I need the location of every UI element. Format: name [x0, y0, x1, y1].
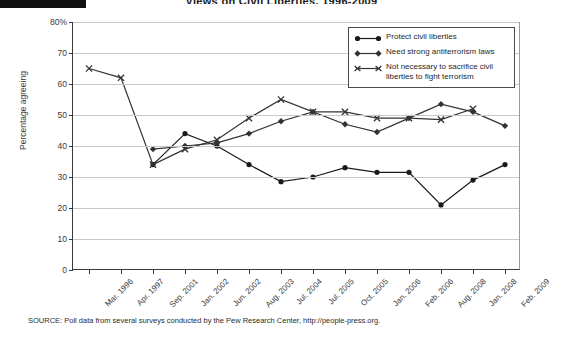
gridline	[73, 208, 519, 209]
gridline	[73, 177, 519, 178]
legend-marker-diamond-icon	[354, 48, 382, 59]
data-point-marker	[86, 65, 92, 71]
gridline	[73, 115, 519, 116]
data-point-marker	[374, 129, 380, 135]
y-tick-label: 70	[58, 48, 73, 58]
legend-marker-circle-icon	[354, 33, 382, 44]
data-point-marker	[438, 202, 443, 207]
legend-marker-cross-icon	[354, 63, 382, 74]
y-tick-label: 0	[62, 265, 73, 275]
legend-item-not-necessary: Not necessary to sacrifice civil liberti…	[354, 62, 509, 82]
x-tick-label: Oct. 2005	[359, 277, 390, 308]
x-tick-label: Sep. 2001	[168, 277, 200, 309]
data-point-marker	[278, 96, 284, 102]
x-tick-mark	[185, 269, 186, 274]
data-point-marker	[470, 178, 475, 183]
data-point-marker	[182, 131, 187, 136]
legend-label-antiterrorism: Need strong antiterrorism laws	[386, 47, 494, 57]
x-tick-label: Aug. 2008	[456, 277, 488, 309]
x-tick-mark	[249, 269, 250, 274]
x-tick-mark	[409, 269, 410, 274]
gridline	[73, 239, 519, 240]
x-tick-mark	[217, 269, 218, 274]
x-tick-label: Jan. 2002	[199, 277, 230, 308]
x-tick-label: Aug. 2003	[264, 277, 296, 309]
x-tick-mark	[281, 269, 282, 274]
chart-legend: Protect civil liberties Need strong anti…	[348, 27, 515, 88]
data-point-marker	[342, 165, 347, 170]
data-point-marker	[278, 118, 284, 124]
data-point-marker	[246, 162, 251, 167]
x-tick-label: Jun. 2002	[231, 277, 262, 308]
data-point-marker	[278, 179, 283, 184]
x-tick-mark	[473, 269, 474, 274]
x-tick-label: Feb. 2006	[424, 277, 456, 309]
x-tick-label: Apr. 1997	[135, 277, 166, 308]
gridline	[73, 22, 519, 23]
x-tick-label: Jan. 2006	[391, 277, 422, 308]
chart-page: Views on Civil Liberties, 1996-2009 80%7…	[0, 0, 563, 338]
gridline	[73, 146, 519, 147]
y-axis-label: Percentage agreeing	[18, 71, 28, 150]
data-point-marker	[118, 75, 124, 81]
y-tick-label: 40	[58, 141, 73, 151]
y-tick-label: 80%	[50, 17, 73, 27]
x-tick-mark	[377, 269, 378, 274]
x-tick-mark	[345, 269, 346, 274]
data-point-marker	[246, 130, 252, 136]
data-point-marker	[438, 101, 444, 107]
legend-label-protect: Protect civil liberties	[386, 32, 457, 42]
x-tick-label: Jul. 2005	[327, 277, 356, 306]
series-line	[153, 104, 505, 149]
legend-item-antiterrorism: Need strong antiterrorism laws	[354, 47, 509, 59]
chart-title: Views on Civil Liberties, 1996-2009	[0, 0, 563, 4]
x-tick-mark	[153, 269, 154, 274]
data-point-marker	[342, 121, 348, 127]
y-tick-label: 10	[58, 234, 73, 244]
source-note: SOURCE: Poll data from several surveys c…	[28, 316, 380, 325]
legend-label-not-necessary: Not necessary to sacrifice civil liberti…	[386, 62, 509, 82]
data-point-marker	[502, 162, 507, 167]
y-tick-label: 60	[58, 79, 73, 89]
x-tick-label: Mar. 1996	[103, 277, 135, 309]
x-tick-mark	[441, 269, 442, 274]
y-tick-label: 30	[58, 172, 73, 182]
y-tick-label: 20	[58, 203, 73, 213]
x-tick-label: Feb. 2009	[520, 277, 552, 309]
y-tick-label: 50	[58, 110, 73, 120]
data-point-marker	[374, 170, 379, 175]
x-tick-mark	[89, 269, 90, 274]
data-point-marker	[502, 123, 508, 129]
x-tick-mark	[313, 269, 314, 274]
x-tick-label: Jul. 2004	[295, 277, 324, 306]
x-tick-mark	[121, 269, 122, 274]
x-tick-mark	[505, 269, 506, 274]
data-point-marker	[406, 170, 411, 175]
x-tick-label: Jan. 2008	[487, 277, 518, 308]
legend-item-protect: Protect civil liberties	[354, 32, 509, 44]
